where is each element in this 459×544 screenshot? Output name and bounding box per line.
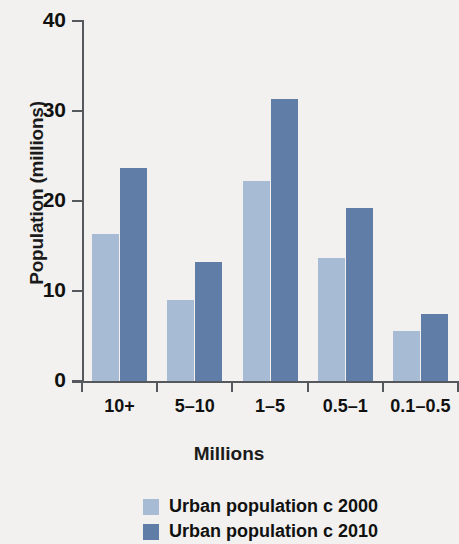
x-axis-tick-label: 0.5–1 [308,396,383,417]
bar-0-1-0-5-2010 [421,314,448,381]
legend: Urban population c 2000Urban population … [143,494,378,544]
x-axis-tick [307,381,309,392]
x-axis-tick-label: 10+ [82,396,157,417]
legend-swatch-icon [143,524,159,540]
x-axis-tick [156,381,158,392]
y-axis-tick-label: 20 [43,188,66,212]
legend-item: Urban population c 2000 [143,494,378,519]
y-axis-tick: 30 [72,110,82,112]
x-axis-tick-label: 5–10 [157,396,232,417]
bar-0-1-0-5-2000 [393,331,420,381]
y-axis-tick-label: 10 [43,278,66,302]
bar-5-10-2010 [195,262,222,381]
x-axis-tick-label: 1–5 [232,396,307,417]
x-axis-tick [231,381,233,392]
bar-10--2010 [120,168,147,381]
bar-0-5-1-2000 [318,258,345,381]
plot-area: 010203040 [82,21,458,381]
bar-5-10-2000 [167,300,194,381]
y-axis-tick: 20 [72,200,82,202]
legend-label: Urban population c 2010 [169,521,378,542]
bar-10--2000 [92,234,119,381]
y-axis-tick-label: 0 [54,368,66,392]
x-axis-tick-label: 0.1–0.5 [383,396,458,417]
x-axis-tick [81,381,83,392]
bar-1-5-2000 [243,181,270,381]
y-axis-tick: 40 [72,20,82,22]
y-axis-tick-label: 40 [43,8,66,32]
legend-swatch-icon [143,499,159,515]
y-axis-tick-label: 30 [43,98,66,122]
bar-1-5-2010 [271,99,298,381]
bar-0-5-1-2010 [346,208,373,381]
x-axis-tick [382,381,384,392]
y-axis-tick: 10 [72,290,82,292]
legend-label: Urban population c 2000 [169,496,378,517]
legend-item: Urban population c 2010 [143,519,378,544]
x-axis-line [72,381,458,383]
x-axis-title: Millions [0,443,458,465]
